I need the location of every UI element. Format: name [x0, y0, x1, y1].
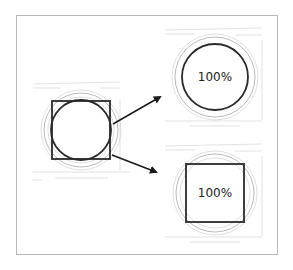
- arrow-to-square: [112, 155, 156, 172]
- square-result-panel: 100%: [165, 144, 262, 242]
- source-inner-ring: [48, 97, 114, 163]
- circle-result-panel: 100%: [165, 28, 262, 126]
- source-sketch-notes: [33, 82, 130, 180]
- source-square: [52, 101, 110, 159]
- source-outer-ring: [44, 93, 118, 167]
- square-percent-label: 100%: [198, 186, 232, 200]
- source-panel: [33, 82, 130, 180]
- source-guide-ring: [41, 90, 121, 170]
- circle-percent-label: 100%: [198, 70, 232, 84]
- diagram-canvas: 100% 100%: [0, 0, 293, 270]
- source-circle: [51, 100, 111, 160]
